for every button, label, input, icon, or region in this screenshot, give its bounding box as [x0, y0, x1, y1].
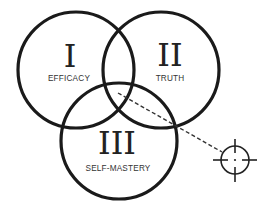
label-truth: TRUTH: [156, 74, 185, 83]
numeral-iii: III: [98, 124, 136, 162]
venn-diagram: I II III EFFICACY TRUTH SELF-MASTERY: [0, 0, 272, 210]
numeral-i: I: [64, 37, 77, 75]
label-efficacy: EFFICACY: [48, 74, 90, 83]
crosshair-icon: [213, 139, 257, 182]
numeral-ii: II: [157, 36, 182, 74]
label-self-mastery: SELF-MASTERY: [85, 164, 150, 173]
venn-diagram-canvas: I II III EFFICACY TRUTH SELF-MASTERY: [0, 0, 272, 210]
